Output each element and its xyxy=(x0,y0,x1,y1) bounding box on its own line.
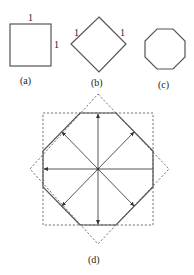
octagon-shape xyxy=(145,29,185,69)
caption-c: (c) xyxy=(158,79,169,91)
panel-c: (c) xyxy=(145,29,185,91)
arrow-down-left xyxy=(62,169,98,206)
panel-b: 1 1 (b) xyxy=(71,17,126,89)
side-label-top: 1 xyxy=(28,12,33,23)
arrow-down-right xyxy=(98,169,134,206)
arrows xyxy=(44,114,153,224)
figure-canvas: 1 1 (a) 1 1 (b) (c) (d) xyxy=(0,0,194,275)
panel-a: 1 1 (a) xyxy=(10,12,59,87)
square-shape xyxy=(10,24,51,66)
diamond-shape xyxy=(71,17,126,72)
panel-d: (d) xyxy=(30,94,169,266)
caption-a: (a) xyxy=(20,75,31,87)
side-label-left: 1 xyxy=(74,27,79,38)
caption-d: (d) xyxy=(88,254,100,266)
center-dot xyxy=(97,168,100,171)
arrow-up-left xyxy=(62,132,98,169)
caption-b: (b) xyxy=(91,77,103,89)
side-label-right: 1 xyxy=(54,39,59,50)
arrow-up-right xyxy=(98,132,134,169)
side-label-right: 1 xyxy=(120,27,125,38)
